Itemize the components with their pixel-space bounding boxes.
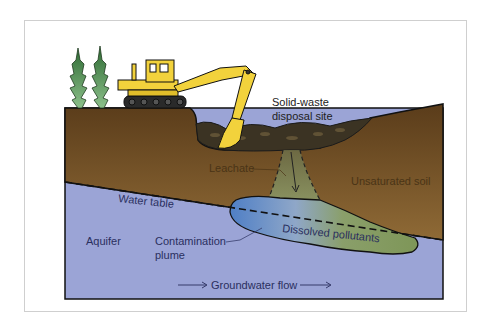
contamination-diagram: Solid-waste disposal site Leachate Unsat…: [0, 0, 491, 328]
label-plume-line1: Contamination: [155, 235, 226, 247]
tree-icon: [92, 46, 109, 108]
label-unsaturated-soil: Unsaturated soil: [351, 175, 431, 187]
label-leachate: Leachate: [209, 162, 254, 174]
label-aquifer: Aquifer: [86, 235, 121, 247]
label-site-line1: Solid-waste: [272, 96, 329, 108]
label-groundwater-flow: Groundwater flow: [211, 279, 297, 291]
label-site-line2: disposal site: [272, 110, 333, 122]
label-plume-line2: plume: [155, 249, 185, 261]
tree-icon: [70, 48, 87, 108]
